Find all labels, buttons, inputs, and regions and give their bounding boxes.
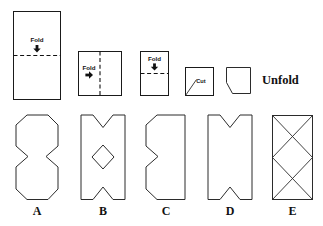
option-d-letter: D	[226, 204, 235, 218]
option-e-outline[interactable]	[273, 116, 313, 200]
option-c-shape[interactable]	[146, 115, 185, 200]
option-d[interactable]: D	[208, 115, 252, 218]
option-b[interactable]: B	[81, 115, 125, 218]
option-c-letter: C	[162, 204, 171, 218]
step-1-fold-label: Fold	[30, 36, 43, 43]
option-a-shape[interactable]	[16, 115, 58, 200]
option-e-letter: E	[288, 204, 296, 218]
step-2-fold-label: Fold	[82, 64, 95, 71]
puzzle-canvas: Fold Fold Fold	[0, 0, 323, 226]
step-4-cut-label: Cut	[196, 78, 205, 84]
step-3-fold-down: Fold	[141, 52, 169, 96]
option-d-shape[interactable]	[208, 115, 252, 200]
step-4-cut: Cut	[186, 68, 214, 96]
step-1-fold-down: Fold	[14, 12, 61, 100]
step-3-fold-label: Fold	[148, 55, 161, 62]
option-e[interactable]: E	[273, 116, 313, 219]
step-5-result	[227, 68, 251, 94]
unfold-label: Unfold	[262, 73, 299, 87]
option-c[interactable]: C	[146, 115, 185, 218]
option-a-letter: A	[33, 204, 42, 218]
option-b-letter: B	[99, 204, 107, 218]
step-2-fold-right: Fold	[79, 52, 122, 96]
puzzle-board: Fold Fold Fold	[0, 0, 323, 226]
option-a[interactable]: A	[16, 115, 58, 218]
step-5-paper	[227, 68, 251, 94]
